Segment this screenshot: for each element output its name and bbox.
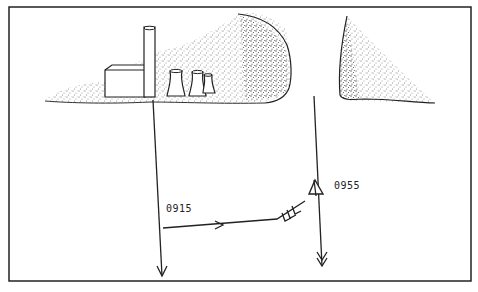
diagram-canvas [0, 0, 478, 292]
triangle-marker [309, 180, 323, 196]
building [105, 65, 145, 97]
time-label-0915: 0915 [166, 203, 192, 214]
left-track [153, 100, 167, 276]
chimney [144, 26, 155, 97]
right-landmass [339, 16, 435, 103]
time-label-0955: 0955 [334, 180, 360, 191]
